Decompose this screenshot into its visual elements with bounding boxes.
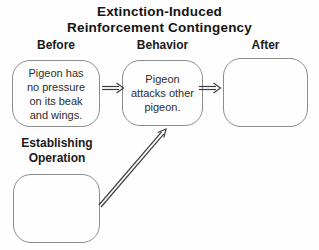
diagram-title-line1: Extinction-Induced xyxy=(0,4,319,20)
behavior-box: Pigeon attacks other pigeon. xyxy=(122,60,203,126)
establishing-operation-label-line1: Establishing xyxy=(0,136,114,151)
column-header-after: After xyxy=(218,38,313,53)
before-box-text: Pigeon has no pressure on its beak and w… xyxy=(27,66,85,122)
column-header-behavior: Behavior xyxy=(117,38,208,53)
arrow-before-to-behavior xyxy=(102,83,124,93)
establishing-operation-box xyxy=(13,174,100,243)
after-box xyxy=(223,58,308,127)
diagram-title-line2: Reinforcement Contingency xyxy=(0,20,319,36)
diagram-canvas: Extinction-Induced Reinforcement Conting… xyxy=(0,0,319,250)
before-box: Pigeon has no pressure on its beak and w… xyxy=(12,60,100,127)
diagram-title: Extinction-Induced Reinforcement Conting… xyxy=(0,4,319,35)
column-header-before: Before xyxy=(6,38,106,53)
establishing-operation-label-line2: Operation xyxy=(0,151,114,166)
behavior-box-text: Pigeon attacks other pigeon. xyxy=(131,72,194,114)
establishing-operation-label: Establishing Operation xyxy=(0,136,114,166)
